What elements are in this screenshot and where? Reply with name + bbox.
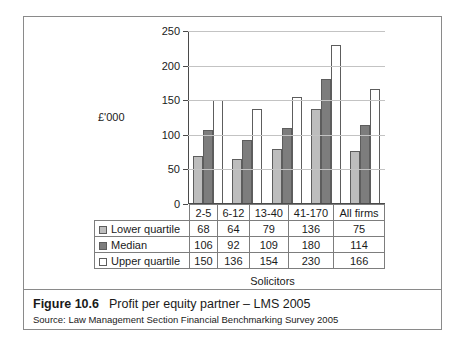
bar [360, 125, 370, 203]
chart-region: £'000 050100150200250 2-56-1213-4041-170… [24, 17, 441, 275]
figure-title-text: Profit per equity partner – LMS 2005 [109, 297, 311, 311]
table-cell: 79 [249, 221, 288, 237]
y-axis-tick [183, 135, 188, 136]
bar [272, 149, 282, 203]
x-axis-label-text: Solicitors [250, 275, 295, 287]
table-cell: 230 [288, 253, 333, 269]
bar [292, 97, 302, 203]
table-cell: 166 [334, 253, 385, 269]
y-axis-tick [183, 100, 188, 101]
table-cell: 150 [190, 253, 218, 269]
y-axis-tick [183, 169, 188, 170]
legend-swatch-icon [99, 258, 107, 266]
table-cell: 75 [334, 221, 385, 237]
table-row: Median10692109180114 [95, 237, 385, 253]
table-cell: 68 [190, 221, 218, 237]
figure-source: Source: Law Management Section Financial… [33, 314, 433, 325]
bar [331, 45, 341, 203]
table-corner-cell [95, 205, 190, 221]
x-axis-label: Solicitors [24, 275, 441, 287]
bar [213, 100, 223, 203]
bar-group [267, 31, 306, 203]
bar-group [189, 31, 228, 203]
legend-swatch-icon [99, 242, 107, 250]
legend-label: Upper quartile [111, 255, 180, 267]
y-axis-tick [183, 66, 188, 67]
table-cell: 114 [334, 237, 385, 253]
caption-title: Figure 10.6Profit per equity partner – L… [33, 297, 433, 311]
caption-divider [24, 289, 441, 290]
legend-row-header: Lower quartile [95, 221, 190, 237]
table-cell: 180 [288, 237, 333, 253]
plot-inner: 050100150200250 [188, 31, 385, 204]
table-cell: 106 [190, 237, 218, 253]
table-column-header: 6-12 [217, 205, 249, 221]
table-row: Upper quartile150136154230166 [95, 253, 385, 269]
table-column-header: 2-5 [190, 205, 218, 221]
table-column-header: 41-170 [288, 205, 333, 221]
table-column-header: All firms [334, 205, 385, 221]
bar [232, 159, 242, 203]
legend-swatch-icon [99, 226, 107, 234]
bar-group [346, 31, 385, 203]
y-axis-tick-label: 250 [162, 25, 180, 37]
y-axis-tick-label: 200 [162, 60, 180, 72]
table-header-row: 2-56-1213-4041-170All firms [95, 205, 385, 221]
bar [311, 109, 321, 203]
table-cell: 92 [217, 237, 249, 253]
bar [350, 151, 360, 203]
bar [252, 109, 262, 203]
bar-group [228, 31, 267, 203]
table-body: Lower quartile68647913675Median106921091… [95, 221, 385, 269]
table-row: Lower quartile68647913675 [95, 221, 385, 237]
table-cell: 64 [217, 221, 249, 237]
bar-group [307, 31, 346, 203]
legend-label: Lower quartile [111, 223, 180, 235]
table-column-header: 13-40 [249, 205, 288, 221]
legend-row-header: Median [95, 237, 190, 253]
y-axis-tick-label: 150 [162, 94, 180, 106]
bar [242, 140, 252, 203]
gridline [188, 31, 385, 32]
table-cell: 136 [288, 221, 333, 237]
table-cell: 154 [249, 253, 288, 269]
bar [203, 130, 213, 203]
y-axis-label: £'000 [98, 111, 125, 123]
table-head: 2-56-1213-4041-170All firms [95, 205, 385, 221]
gridline [188, 100, 385, 101]
table-cell: 109 [249, 237, 288, 253]
legend-row-header: Upper quartile [95, 253, 190, 269]
legend-label: Median [111, 239, 147, 251]
bar [193, 156, 203, 203]
gridline [188, 135, 385, 136]
y-axis-tick [183, 31, 188, 32]
bar-groups [189, 31, 385, 203]
data-table: 2-56-1213-4041-170All firms Lower quarti… [94, 204, 385, 269]
table-cell: 136 [217, 253, 249, 269]
gridline [188, 169, 385, 170]
bar [370, 89, 380, 203]
plot-area: 050100150200250 [188, 31, 385, 204]
figure-box: £'000 050100150200250 2-56-1213-4041-170… [23, 16, 442, 330]
figure-number: Figure 10.6 [33, 297, 99, 311]
gridline [188, 66, 385, 67]
figure-caption: Figure 10.6Profit per equity partner – L… [33, 297, 433, 325]
y-axis-tick-label: 100 [162, 129, 180, 141]
bar [321, 79, 331, 203]
y-axis-tick-label: 50 [168, 163, 180, 175]
bar [282, 128, 292, 203]
